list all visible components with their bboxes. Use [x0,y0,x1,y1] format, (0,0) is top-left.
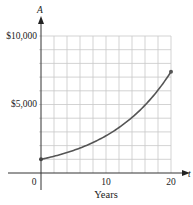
x-axis-label: t [188,169,191,179]
x-tick-20: 20 [166,177,176,187]
y-tick-5000: $5,000 [11,99,37,109]
x-tick-0: 0 [32,177,37,187]
x-axis-title: Years [94,189,117,200]
chart: A t $10,000 $5,000 0 10 20 Years [0,0,193,205]
y-tick-10000: $10,000 [6,31,37,41]
end-point [169,70,173,74]
x-tick-10: 10 [101,177,111,187]
grid [39,36,171,173]
y-axis-label: A [36,5,43,15]
y-axis-arrow-icon [38,16,44,24]
start-point [39,157,43,161]
